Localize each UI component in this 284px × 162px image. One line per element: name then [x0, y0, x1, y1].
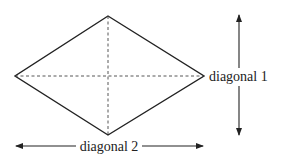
rhombus-diagram: diagonal 1 diagonal 2 [0, 0, 284, 162]
diagonal1-label: diagonal 1 [209, 69, 268, 84]
rhombus-outline [15, 16, 204, 135]
diagonal2-label: diagonal 2 [80, 139, 139, 154]
